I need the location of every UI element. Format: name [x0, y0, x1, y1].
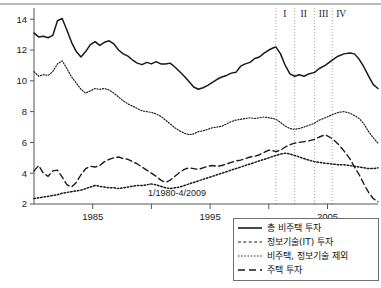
legend-item-nonres-excl-it: 비주택, 정보기술 제외 [237, 249, 375, 263]
x-tick-label-0: 1985 [82, 211, 103, 222]
legend-swatch-dotted-bold [237, 251, 263, 261]
legend-item-residential: 주택 투자 [237, 263, 375, 277]
period-label-3: III [319, 9, 329, 19]
legend-swatch-dotted-fine [237, 237, 263, 247]
legend-label-it-investment: 정보기술(IT) 투자 [267, 237, 333, 247]
y-tick-label-5: 12 [16, 44, 27, 55]
chart-figure: IIIIIIIV24681012141985199520051/1980-4/2… [0, 0, 381, 288]
period-label-2: II [300, 9, 306, 19]
legend-label-total-nonresidential: 총 비주택 투자 [267, 223, 321, 233]
legend-label-nonres-excl-it: 비주택, 정보기술 제외 [267, 251, 348, 261]
date-range-annotation: 1/1980-4/2009 [148, 188, 206, 198]
series-line-0 [34, 18, 378, 89]
legend-item-it-investment: 정보기술(IT) 투자 [237, 235, 375, 249]
period-label-4: IV [336, 9, 346, 19]
y-tick-label-0: 2 [22, 198, 27, 209]
legend-swatch-dashed [237, 265, 263, 275]
y-tick-label-3: 8 [22, 106, 27, 117]
x-tick-label-1: 1995 [200, 211, 221, 222]
chart-legend: 총 비주택 투자 정보기술(IT) 투자 비주택, 정보기술 제외 주택 투자 [233, 218, 379, 281]
legend-label-residential: 주택 투자 [267, 265, 302, 275]
y-tick-label-6: 14 [16, 14, 27, 25]
y-tick-label-4: 10 [16, 75, 27, 86]
legend-item-total-nonresidential: 총 비주택 투자 [237, 221, 375, 235]
series-line-1 [34, 61, 378, 143]
y-tick-label-1: 4 [22, 168, 27, 179]
legend-swatch-solid [237, 223, 263, 233]
y-tick-label-2: 6 [22, 137, 27, 148]
period-label-1: I [283, 9, 286, 19]
